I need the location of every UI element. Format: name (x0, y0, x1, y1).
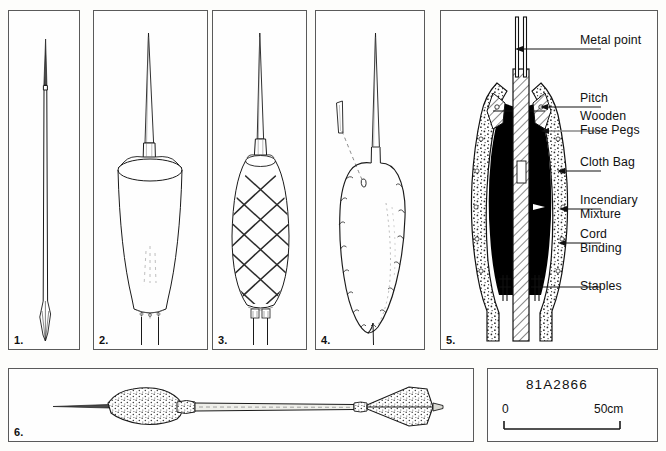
callout-pitch: Pitch (580, 92, 608, 106)
scale-end-label: 50cm (594, 402, 623, 416)
panel-6-number: 6. (14, 426, 24, 438)
panel-3-artwork (213, 11, 306, 349)
callout-incendiary-mixture: Incendiary Mixture (580, 194, 638, 221)
panel-5-number: 5. (446, 334, 456, 346)
panel-4-artwork (316, 11, 424, 349)
panel-2-artwork (94, 11, 207, 349)
panel-5-artwork (441, 11, 657, 349)
panel-1-artwork (9, 11, 79, 349)
panel-3-number: 3. (218, 334, 228, 346)
panel-6: 6. (8, 368, 474, 442)
callout-wooden-fuse-pegs: Wooden Fuse Pegs (580, 110, 640, 137)
callout-cord-binding: Cord Binding (580, 228, 622, 255)
panel-4-number: 4. (321, 334, 331, 346)
panel-2-number: 2. (99, 334, 109, 346)
scale-box: 81A2866 0 50cm (487, 368, 658, 442)
panel-1: 1. (8, 10, 80, 350)
scale-start-label: 0 (502, 402, 509, 416)
panel-6-artwork (9, 369, 473, 441)
panel-5: 5. (440, 10, 658, 350)
panel-2: 2. (93, 10, 208, 350)
panel-4: 4. (315, 10, 425, 350)
callout-metal-point: Metal point (580, 34, 641, 48)
catalog-number: 81A2866 (526, 377, 588, 392)
scale-bar (502, 420, 634, 434)
callout-staples: Staples (580, 280, 622, 294)
panel-1-number: 1. (14, 334, 24, 346)
panel-3: 3. (212, 10, 307, 350)
callout-cloth-bag: Cloth Bag (580, 156, 635, 170)
